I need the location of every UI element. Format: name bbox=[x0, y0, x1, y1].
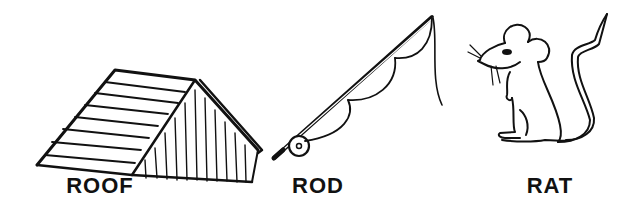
rat-icon bbox=[468, 14, 607, 142]
label-rat: RAT bbox=[527, 174, 574, 198]
fishing-rod-icon bbox=[274, 17, 442, 158]
roof-icon bbox=[37, 70, 262, 182]
label-rod: ROD bbox=[292, 174, 344, 198]
label-roof: ROOF bbox=[66, 174, 134, 198]
